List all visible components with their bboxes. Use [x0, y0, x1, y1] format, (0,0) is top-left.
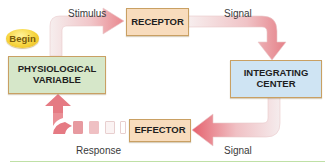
integrating-center-label: INTEGRATING CENTER	[244, 68, 309, 90]
feedback-loop-diagram: Begin PHYSIOLOGICAL VARIABLE RECEPTOR IN…	[0, 0, 329, 163]
response-step-1	[73, 121, 83, 134]
signal-arrow-to-integrating-center	[188, 16, 286, 60]
response-step-4	[120, 121, 126, 134]
response-arrow	[45, 94, 72, 134]
physiological-variable-box: PHYSIOLOGICAL VARIABLE	[8, 56, 106, 94]
effector-label: EFFECTOR	[134, 125, 185, 136]
response-step-2	[89, 121, 99, 134]
receptor-box: RECEPTOR	[126, 8, 189, 36]
begin-badge: Begin	[6, 29, 39, 48]
effector-box: EFFECTOR	[129, 119, 191, 142]
response-step-3	[105, 121, 115, 134]
integrating-center-box: INTEGRATING CENTER	[230, 60, 322, 98]
signal-arrow-to-effector	[192, 97, 280, 146]
signal-label-top: Signal	[224, 8, 252, 19]
receptor-label: RECEPTOR	[131, 17, 184, 28]
signal-label-bottom: Signal	[224, 145, 252, 156]
begin-label: Begin	[9, 33, 35, 44]
physiological-variable-label: PHYSIOLOGICAL VARIABLE	[18, 64, 97, 86]
bottom-divider	[10, 161, 325, 162]
stimulus-label: Stimulus	[68, 8, 106, 19]
response-label: Response	[76, 145, 121, 156]
